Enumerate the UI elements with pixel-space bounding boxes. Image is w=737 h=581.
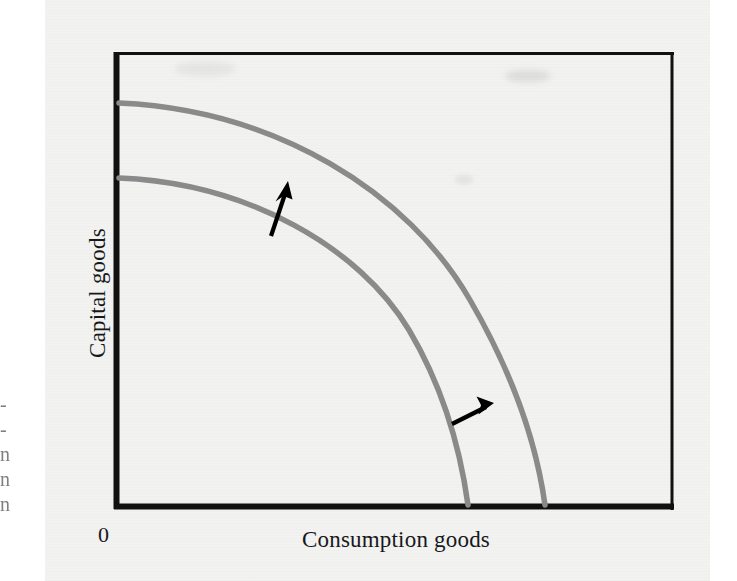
growth-arrow-upper [271, 181, 293, 236]
ppf-curve-outer [119, 103, 545, 505]
x-axis-label: Consumption goods [0, 527, 737, 553]
growth-arrow-lower [452, 397, 494, 425]
figure-root: --nnn Capital goods Consumption goods 0 [0, 0, 737, 581]
y-axis-label: Capital goods [85, 183, 111, 403]
origin-label: 0 [98, 522, 109, 548]
